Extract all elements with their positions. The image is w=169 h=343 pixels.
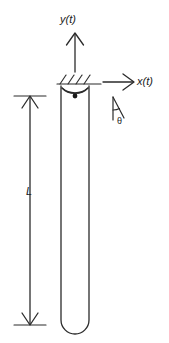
fixed-support-hatching <box>57 75 101 84</box>
pivot-center-dot <box>73 94 78 99</box>
x-axis-label: x(t) <box>137 76 153 87</box>
y-axis-arrow <box>67 33 84 72</box>
length-label: L <box>26 186 32 197</box>
x-axis-arrow <box>103 74 134 90</box>
y-axis-label: y(t) <box>60 14 76 25</box>
length-dimension-line <box>14 96 46 325</box>
pendulum-diagram <box>0 0 169 343</box>
pin-joint <box>62 88 88 93</box>
angle-label: θ <box>117 117 122 126</box>
diagram-canvas: y(t) x(t) L θ <box>0 0 169 343</box>
pendulum-rod <box>61 86 89 334</box>
